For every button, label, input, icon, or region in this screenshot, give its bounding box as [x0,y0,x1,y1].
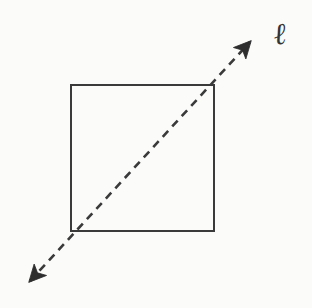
figure-canvas [0,0,312,308]
geometry-figure: ℓ [0,0,312,308]
figure-background [0,0,312,308]
